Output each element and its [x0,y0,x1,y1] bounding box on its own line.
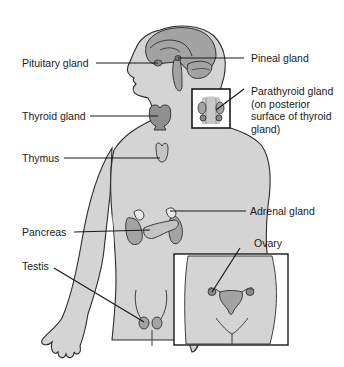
label-parathyroid-gland: Parathyroid gland (on posterior surface … [251,85,343,135]
label-ovary: Ovary [254,237,282,250]
female-pelvis-inset [174,254,288,345]
label-thymus: Thymus [22,152,59,165]
label-testis: Testis [22,260,49,273]
thymus [156,143,168,162]
label-pituitary-gland: Pituitary gland [22,57,89,70]
ovary-right [246,289,254,296]
label-thyroid-gland: Thyroid gland [22,110,86,123]
label-pancreas: Pancreas [22,226,66,239]
testis-right [152,317,162,329]
testis-left [139,317,149,329]
label-adrenal-gland: Adrenal gland [250,205,315,218]
parathyroid-inset [192,89,230,128]
label-pineal-gland: Pineal gland [251,52,309,65]
